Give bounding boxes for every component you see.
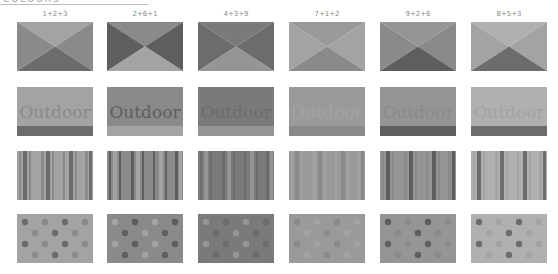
page-title-rule [0, 4, 148, 5]
swatch-triangles [17, 22, 93, 71]
svg-text:Outdoor: Outdoor [19, 102, 91, 122]
swatch-stripes [471, 151, 547, 200]
swatch-dots [107, 214, 183, 263]
swatch-outdoor: Outdoor [17, 87, 93, 136]
swatch-outdoor: Outdoor [380, 87, 456, 136]
svg-text:Outdoor: Outdoor [291, 102, 363, 122]
column-label: 2+6+1 [107, 10, 183, 18]
swatch-outdoor: Outdoor [107, 87, 183, 136]
swatch-dots [289, 214, 365, 263]
swatch-stripes [289, 151, 365, 200]
column-label: 4+3+9 [198, 10, 274, 18]
svg-text:Outdoor: Outdoor [109, 102, 181, 122]
swatch-outdoor: Outdoor [471, 87, 547, 136]
swatch-dots [198, 214, 274, 263]
svg-text:Outdoor: Outdoor [473, 102, 545, 122]
page-title: COLOURS [3, 0, 61, 4]
swatch-outdoor: Outdoor [289, 87, 365, 136]
swatch-stripes [17, 151, 93, 200]
swatch-triangles [471, 22, 547, 71]
svg-text:Outdoor: Outdoor [382, 102, 454, 122]
column-label: 8+5+3 [471, 10, 547, 18]
swatch-dots [471, 214, 547, 263]
swatch-dots [380, 214, 456, 263]
swatch-stripes [107, 151, 183, 200]
swatch-stripes [198, 151, 274, 200]
swatch-dots [17, 214, 93, 263]
swatch-triangles [198, 22, 274, 71]
swatch-stripes [380, 151, 456, 200]
column-label: 1+2+3 [17, 10, 93, 18]
swatch-triangles [107, 22, 183, 71]
svg-text:Outdoor: Outdoor [200, 102, 272, 122]
swatch-triangles [289, 22, 365, 71]
column-label: 9+2+6 [380, 10, 456, 18]
swatch-outdoor: Outdoor [198, 87, 274, 136]
swatch-triangles [380, 22, 456, 71]
column-label: 7+1+2 [289, 10, 365, 18]
